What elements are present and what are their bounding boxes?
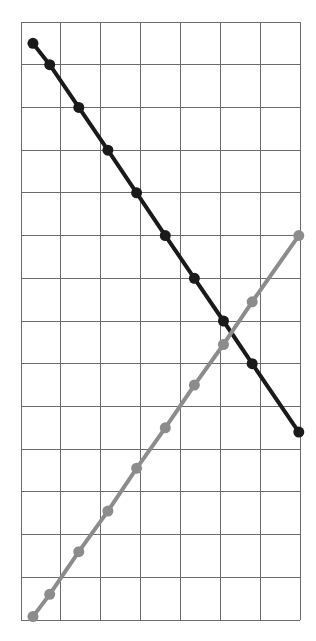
data-point-marker (102, 506, 113, 517)
data-point-marker (247, 296, 258, 307)
data-point-marker (189, 273, 200, 284)
data-point-marker (218, 316, 229, 327)
data-point-marker (27, 611, 38, 622)
data-point-marker (73, 102, 84, 113)
data-point-marker (44, 589, 55, 600)
data-point-marker (131, 463, 142, 474)
chart-canvas (0, 0, 316, 641)
data-point-marker (27, 38, 38, 49)
data-point-marker (102, 145, 113, 156)
data-point-marker (293, 427, 304, 438)
data-point-marker (73, 546, 84, 557)
data-point-marker (160, 230, 171, 241)
data-point-marker (131, 187, 142, 198)
data-point-marker (189, 380, 200, 391)
data-point-marker (218, 339, 229, 350)
data-point-marker (160, 422, 171, 433)
data-point-marker (293, 230, 304, 241)
data-point-marker (247, 358, 258, 369)
line-chart (0, 0, 316, 641)
data-point-marker (44, 59, 55, 70)
